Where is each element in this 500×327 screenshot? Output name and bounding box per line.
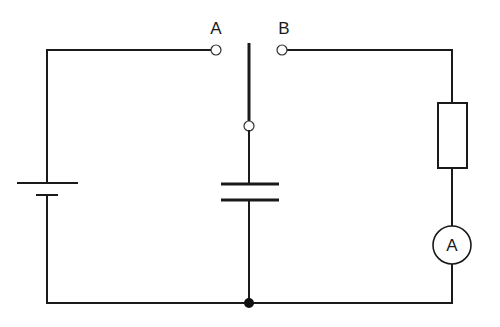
right-loop-wires: [287, 50, 452, 303]
junction-dot-icon: [244, 298, 254, 308]
ammeter-icon: A: [433, 226, 471, 264]
terminal-a-label: A: [210, 19, 222, 38]
switch-pivot-icon: [244, 121, 254, 131]
circuit-diagram: A A B: [0, 0, 500, 327]
terminal-b-icon: [277, 45, 287, 55]
terminal-a-icon: [211, 45, 221, 55]
ammeter-label: A: [446, 236, 458, 255]
switch-icon: [244, 43, 254, 131]
battery-icon: [18, 183, 77, 195]
capacitor-icon: [221, 184, 279, 200]
terminal-b-label: B: [278, 19, 289, 38]
resistor-icon: [438, 103, 467, 168]
